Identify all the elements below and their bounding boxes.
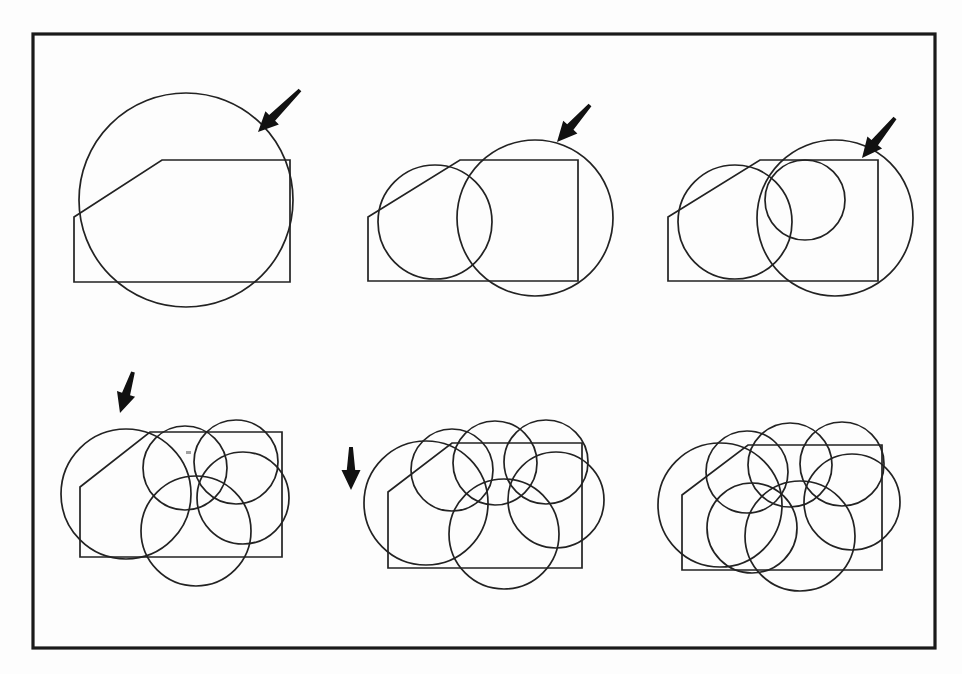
disk-covering-figure: [0, 0, 962, 674]
scan-speck: [186, 451, 191, 454]
figure-root: Progressive disk covering of a chamfered…: [0, 0, 962, 674]
scan-specks: [186, 451, 191, 454]
